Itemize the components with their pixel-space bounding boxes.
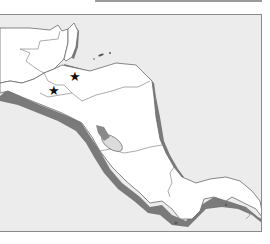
top-divider-line	[95, 0, 262, 2]
star-marker-1: ★	[69, 70, 81, 83]
map-frame	[0, 14, 262, 232]
star-marker-2: ★	[48, 84, 60, 97]
land	[0, 23, 262, 219]
central-america-map	[0, 15, 262, 232]
